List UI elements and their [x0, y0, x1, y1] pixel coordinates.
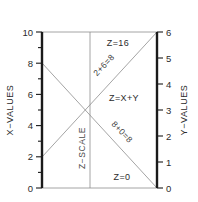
- left-tick-label-10: 10: [22, 27, 33, 38]
- annotation-z-min: Z=0: [114, 172, 131, 182]
- right-tick-label-3: 3: [166, 105, 171, 116]
- z-scale-title: Z−SCALE: [77, 127, 87, 169]
- right-tick-label-5: 5: [166, 53, 171, 64]
- right-tick-label-1: 1: [166, 157, 171, 168]
- left-tick-label-4: 4: [28, 120, 33, 131]
- right-axis-title: Y−VALUES: [179, 85, 189, 136]
- isopleth-line-ascending: [42, 32, 157, 157]
- right-tick-label-2: 2: [166, 131, 171, 142]
- left-tick-label-6: 6: [28, 89, 33, 100]
- left-tick-label-0: 0: [28, 183, 33, 194]
- left-tick-label-2: 2: [28, 151, 33, 162]
- right-tick-label-6: 6: [166, 27, 171, 38]
- isopleth-line-descending: [42, 63, 157, 188]
- nomogram-chart: 10 8 6 4 2 0 X−VALUES 6 5 4 3 2 1 0 Y−VA: [0, 0, 198, 202]
- right-tick-label-4: 4: [166, 79, 171, 90]
- annotation-z-max: Z=16: [107, 38, 129, 48]
- left-tick-label-8: 8: [28, 58, 33, 69]
- right-tick-label-0: 0: [166, 183, 171, 194]
- left-axis: 10 8 6 4 2 0 X−VALUES: [5, 27, 42, 194]
- annotation-isopleth-ascending: 2+6=8: [91, 52, 116, 78]
- right-axis: 6 5 4 3 2 1 0 Y−VALUES: [157, 27, 189, 194]
- left-axis-title: X−VALUES: [5, 85, 15, 136]
- annotation-relation: Z=X+Y: [109, 93, 139, 103]
- annotation-group: Z=16 Z=X+Y Z=0 2+6=8 8+0=8 Z−SCALE: [77, 38, 139, 182]
- nomogram-canvas: 10 8 6 4 2 0 X−VALUES 6 5 4 3 2 1 0 Y−VA: [0, 0, 198, 202]
- isopleth-line-group: [42, 32, 157, 188]
